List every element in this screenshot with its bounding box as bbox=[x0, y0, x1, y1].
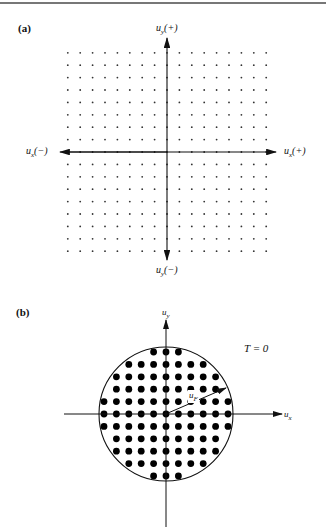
occupied-state-dot bbox=[187, 373, 194, 380]
occupied-state-dot bbox=[113, 435, 120, 442]
occupied-state-dot bbox=[187, 435, 194, 442]
occupied-state-dot bbox=[187, 423, 194, 430]
occupied-state-dot bbox=[150, 373, 157, 380]
occupied-state-dot bbox=[138, 361, 145, 368]
occupied-state-dot bbox=[175, 398, 182, 405]
occupied-state-dot bbox=[175, 349, 182, 356]
occupied-state-dot bbox=[200, 386, 207, 393]
occupied-state-dot bbox=[125, 398, 132, 405]
occupied-state-dot bbox=[125, 448, 132, 455]
occupied-state-dot bbox=[175, 448, 182, 455]
occupied-state-dot bbox=[200, 448, 207, 455]
occupied-state-dot bbox=[150, 361, 157, 368]
occupied-state-dot bbox=[138, 373, 145, 380]
uy-label-b: uy bbox=[162, 307, 170, 320]
occupied-state-dot bbox=[212, 448, 219, 455]
occupied-state-dot bbox=[125, 423, 132, 430]
occupied-state-dot bbox=[125, 386, 132, 393]
occupied-state-dot bbox=[113, 386, 120, 393]
occupied-state-dot bbox=[138, 448, 145, 455]
occupied-state-dot bbox=[150, 448, 157, 455]
occupied-state-dot bbox=[175, 361, 182, 368]
occupied-state-dot bbox=[125, 373, 132, 380]
occupied-state-dot bbox=[113, 373, 120, 380]
occupied-state-dot bbox=[175, 423, 182, 430]
fermi-radius-label: uF bbox=[188, 390, 199, 403]
occupied-state-dot bbox=[187, 448, 194, 455]
panel-b: (b) uy ux uF T = 0 bbox=[0, 0, 326, 527]
temperature-annotation: T = 0 bbox=[244, 342, 268, 354]
occupied-state-dot bbox=[138, 423, 145, 430]
occupied-state-dot bbox=[150, 386, 157, 393]
occupied-state-dot bbox=[138, 435, 145, 442]
occupied-state-dot bbox=[150, 435, 157, 442]
panel-b-plot bbox=[0, 0, 326, 527]
occupied-state-dot bbox=[138, 398, 145, 405]
occupied-state-dot bbox=[200, 373, 207, 380]
occupied-state-dot bbox=[101, 423, 108, 430]
occupied-state-dot bbox=[175, 460, 182, 467]
occupied-state-dot bbox=[212, 435, 219, 442]
occupied-state-dot bbox=[113, 398, 120, 405]
occupied-state-dot bbox=[212, 423, 219, 430]
occupied-state-dot bbox=[138, 460, 145, 467]
occupied-state-dot bbox=[187, 361, 194, 368]
occupied-state-dot bbox=[175, 386, 182, 393]
occupied-state-dot bbox=[150, 398, 157, 405]
occupied-state-dot bbox=[212, 398, 219, 405]
occupied-state-dot bbox=[150, 460, 157, 467]
occupied-state-dot bbox=[212, 373, 219, 380]
occupied-state-dot bbox=[113, 423, 120, 430]
occupied-state-dot bbox=[200, 423, 207, 430]
occupied-state-dot bbox=[150, 349, 157, 356]
occupied-state-dot bbox=[101, 398, 108, 405]
occupied-state-dot bbox=[175, 373, 182, 380]
occupied-state-dot bbox=[200, 435, 207, 442]
occupied-state-dot bbox=[150, 473, 157, 480]
occupied-state-dot bbox=[187, 460, 194, 467]
occupied-state-dot bbox=[125, 435, 132, 442]
occupied-state-dot bbox=[150, 423, 157, 430]
occupied-state-dot bbox=[113, 448, 120, 455]
occupied-state-dot bbox=[125, 361, 132, 368]
occupied-state-dot bbox=[125, 460, 132, 467]
occupied-state-dot bbox=[225, 423, 232, 430]
occupied-state-dot bbox=[200, 361, 207, 368]
occupied-state-dot bbox=[175, 435, 182, 442]
ux-label-b: ux bbox=[284, 409, 292, 422]
occupied-state-dot bbox=[200, 460, 207, 467]
occupied-state-dot bbox=[138, 386, 145, 393]
occupied-state-dot bbox=[225, 398, 232, 405]
occupied-state-dot bbox=[175, 473, 182, 480]
